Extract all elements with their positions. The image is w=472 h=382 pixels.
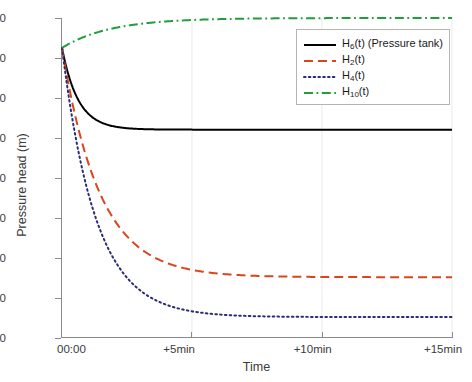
x-tick-1: +5min (163, 343, 195, 355)
legend-label-2: H4(t) (342, 70, 365, 81)
x-tick-mark-3 (452, 332, 453, 338)
y-tick-50: 50 (0, 252, 6, 264)
y-tick-40: 40 (0, 292, 6, 304)
legend-label-0: H6(t) (Pressure tank) (342, 38, 443, 49)
y-tick-70: 70 (0, 172, 6, 184)
y-tick-30: 30 (0, 332, 6, 344)
y-axis-label: Pressure head (m) (15, 105, 29, 265)
y-tick-90: 90 (0, 92, 6, 104)
legend-item-0[interactable]: H6(t) (Pressure tank) (303, 35, 443, 51)
y-tick-mark-30 (55, 338, 61, 339)
legend-item-1[interactable]: H2(t) (303, 51, 443, 67)
legend-item-2[interactable]: H4(t) (303, 67, 443, 83)
y-tick-100: 100 (0, 52, 6, 64)
legend-label-3: H10(t) (342, 86, 369, 97)
x-tick-mark-1 (191, 332, 192, 338)
x-tick-3: +15min (424, 343, 462, 355)
y-tick-80: 80 (0, 132, 6, 144)
chart-legend[interactable]: H6(t) (Pressure tank)H2(t)H4(t)H10(t) (296, 29, 450, 105)
x-tick-mark-0 (61, 332, 62, 338)
legend-swatch-2 (303, 69, 337, 81)
legend-item-3[interactable]: H10(t) (303, 83, 443, 99)
x-tick-mark-2 (322, 332, 323, 338)
legend-label-1: H2(t) (342, 54, 365, 65)
legend-swatch-1 (303, 53, 337, 65)
y-tick-110: 110 (0, 12, 6, 24)
x-axis-label: Time (61, 360, 452, 374)
x-tick-0: 00:00 (57, 343, 86, 355)
legend-swatch-0 (303, 37, 337, 49)
x-tick-2: +10min (294, 343, 332, 355)
legend-swatch-3 (303, 85, 337, 97)
y-tick-60: 60 (0, 212, 6, 224)
chart-figure: Pressure head (m) 30405060708090100110 0… (0, 0, 472, 382)
